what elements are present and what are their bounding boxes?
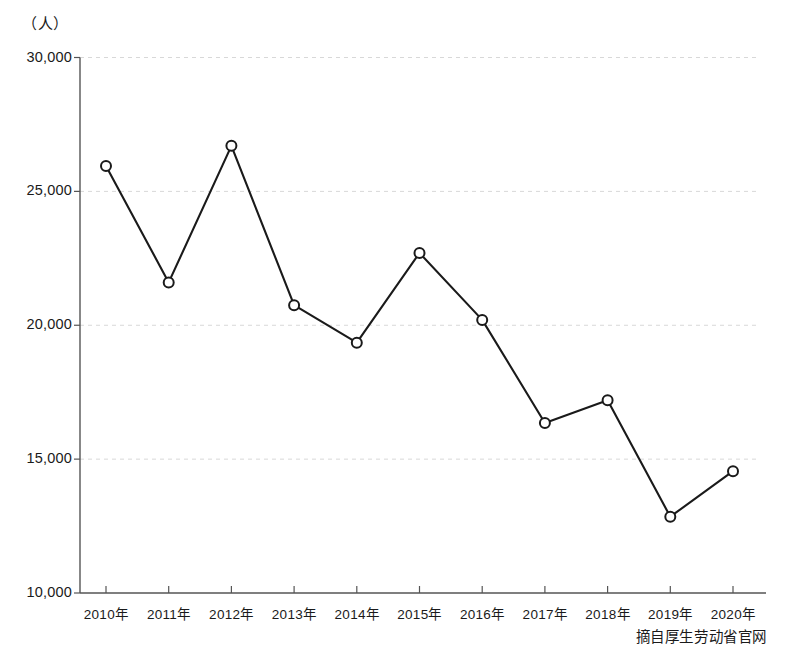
x-tick-marks-group: [106, 586, 733, 593]
data-point-marker: [603, 395, 613, 405]
y-axis-tick-label: 15,000: [0, 450, 72, 466]
x-axis-tick-label: 2020年: [698, 603, 768, 623]
x-axis-tick-label: 2015年: [385, 603, 455, 623]
x-axis-tick-label: 2010年: [71, 603, 141, 623]
x-axis-tick-label: 2013年: [259, 603, 329, 623]
x-axis-tick-label: 2019年: [635, 603, 705, 623]
data-point-marker: [352, 338, 362, 348]
data-point-marker: [665, 512, 675, 522]
x-axis-tick-label: 2016年: [447, 603, 517, 623]
y-axis-tick-label: 30,000: [0, 49, 72, 65]
y-axis-tick-label: 25,000: [0, 182, 72, 198]
data-point-marker: [289, 300, 299, 310]
data-point-marker: [415, 248, 425, 258]
x-axis-tick-label: 2017年: [510, 603, 580, 623]
data-point-marker: [101, 161, 111, 171]
data-line-path-group: [106, 146, 733, 517]
x-axis-tick-label: 2012年: [196, 603, 266, 623]
data-point-marker: [540, 418, 550, 428]
data-point-marker: [728, 466, 738, 476]
x-axis-tick-label: 2014年: [322, 603, 392, 623]
series-line: [106, 146, 733, 517]
x-axis-tick-label: 2011年: [134, 603, 204, 623]
data-point-marker: [477, 315, 487, 325]
y-axis-tick-label: 20,000: [0, 316, 72, 332]
line-chart-plot: [0, 0, 787, 654]
x-axis-tick-label: 2018年: [573, 603, 643, 623]
y-axis-tick-label: 10,000: [0, 584, 72, 600]
data-point-marker: [164, 277, 174, 287]
chart-container: （人） 10,00015,00020,00025,00030,000 2010年…: [0, 0, 787, 654]
source-citation: 摘自厚生劳动省官网: [636, 625, 767, 646]
data-point-marker: [226, 141, 236, 151]
